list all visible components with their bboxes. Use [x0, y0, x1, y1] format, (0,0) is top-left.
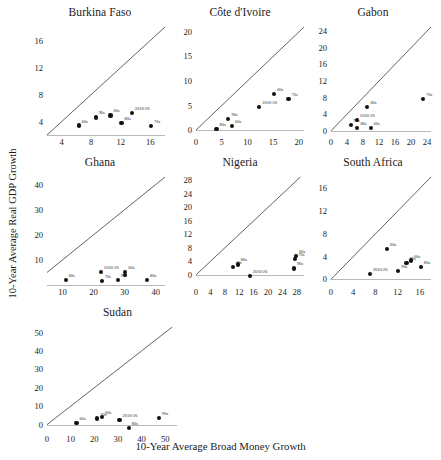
x-tick-label: 4 — [351, 288, 355, 297]
x-tick-label: 24 — [423, 138, 432, 147]
data-point — [95, 416, 99, 420]
panel-baseline — [47, 425, 177, 426]
y-tick-label: 20 — [166, 27, 192, 36]
y-axis-label: 10-Year Average Real GDP Growth — [7, 134, 18, 314]
reference-line-45deg — [0, 0, 441, 460]
data-point — [355, 126, 359, 130]
data-point — [100, 279, 104, 283]
x-tick-label: 20 — [264, 288, 273, 297]
data-point-label: 00s — [128, 266, 134, 271]
x-tick-label: 0 — [45, 435, 49, 444]
data-point-label: 80s — [220, 123, 226, 128]
reference-line-45deg — [0, 0, 441, 460]
y-tick-label: 0 — [166, 270, 192, 279]
y-tick-label: 4 — [166, 257, 192, 266]
panel-title-ghana: Ghana — [30, 156, 170, 168]
x-tick-label: 30 — [114, 435, 123, 444]
y-tick-label: 4 — [301, 252, 327, 261]
x-tick-label: 8 — [361, 138, 365, 147]
panel-title-gabon: Gabon — [305, 6, 441, 18]
data-point — [100, 415, 104, 419]
y-tick-label: 10 — [166, 77, 192, 86]
data-point-label: 70s — [292, 93, 298, 98]
y-tick-label: 30 — [17, 365, 43, 374]
data-point — [419, 265, 423, 269]
data-point — [286, 97, 290, 101]
data-point-label: 90s — [401, 265, 407, 270]
data-point — [421, 97, 425, 101]
data-point — [119, 121, 123, 125]
x-tick-label: 16 — [249, 288, 258, 297]
x-tick-label: 10 — [58, 288, 67, 297]
x-tick-label: 16 — [416, 288, 425, 297]
x-tick-label: 4 — [60, 138, 64, 147]
reference-line-45deg — [0, 0, 441, 460]
data-point-label: 70s — [105, 275, 111, 280]
data-point-label: 80s — [124, 117, 130, 122]
data-point — [369, 126, 373, 130]
y-tick-label: 16 — [301, 184, 327, 193]
x-tick-label: 20 — [295, 138, 304, 147]
data-point — [157, 416, 161, 420]
y-tick-label: 8 — [166, 243, 192, 252]
data-point-label: 00s — [105, 411, 111, 416]
data-point — [117, 418, 121, 422]
y-tick-label: 20 — [17, 230, 43, 239]
y-tick-label: 0 — [166, 126, 192, 135]
data-point-label: 00s — [374, 122, 380, 127]
data-point-label: 90s — [231, 113, 237, 118]
y-tick-label: 50 — [17, 328, 43, 337]
y-tick-label: 16 — [166, 216, 192, 225]
data-point-label: 90s — [162, 412, 168, 417]
y-tick-label: 24 — [166, 189, 192, 198]
x-tick-label: 8 — [223, 288, 227, 297]
data-point — [116, 278, 120, 282]
y-tick-label: 15 — [166, 52, 192, 61]
y-tick-label: 10 — [17, 255, 43, 264]
y-tick-label: 8 — [301, 229, 327, 238]
data-point-label: 2010-20 — [262, 101, 277, 106]
x-tick-label: 4 — [208, 288, 212, 297]
data-point — [127, 426, 131, 430]
data-point — [292, 266, 296, 270]
data-point-label: 2010-20 — [373, 268, 388, 273]
data-point-label: 60s — [69, 274, 75, 279]
data-point — [365, 105, 369, 109]
panel-title-south-africa: South Africa — [305, 156, 441, 168]
data-point-label: 70s — [426, 93, 432, 98]
x-tick-label: 20 — [90, 435, 99, 444]
x-tick-label: 30 — [120, 288, 129, 297]
x-tick-label: 15 — [269, 138, 278, 147]
data-point-label: 80s — [132, 422, 138, 427]
x-tick-label: 5 — [220, 138, 224, 147]
data-point-label: 2010-20 — [360, 114, 375, 119]
data-point — [272, 92, 276, 96]
data-point — [77, 123, 81, 127]
data-point-label: 60s — [82, 120, 88, 125]
panel-baseline — [47, 285, 165, 286]
y-tick-label: 10 — [17, 402, 43, 411]
data-point — [108, 113, 112, 117]
data-point — [64, 278, 68, 282]
data-point — [74, 421, 78, 425]
reference-line-45deg — [0, 0, 441, 460]
data-point — [130, 111, 134, 115]
x-tick-label: 0 — [194, 288, 198, 297]
y-tick-label: 20 — [301, 43, 327, 52]
x-tick-label: 28 — [293, 288, 302, 297]
x-tick-label: 12 — [116, 138, 125, 147]
data-point-label: 70s — [154, 120, 160, 125]
x-tick-label: 8 — [373, 288, 377, 297]
data-point — [236, 262, 240, 266]
x-tick-label: 20 — [407, 138, 416, 147]
data-point — [94, 115, 98, 119]
panel-baseline — [196, 130, 304, 131]
x-tick-label: 16 — [391, 138, 400, 147]
y-tick-label: 12 — [166, 230, 192, 239]
figure-container: 10-Year Average Real GDP Growth 10-Year … — [0, 0, 441, 460]
x-tick-label: 0 — [194, 138, 198, 147]
x-tick-label: 40 — [137, 435, 146, 444]
x-tick-label: 50 — [161, 435, 170, 444]
x-tick-label: 8 — [89, 138, 93, 147]
data-point — [231, 265, 235, 269]
